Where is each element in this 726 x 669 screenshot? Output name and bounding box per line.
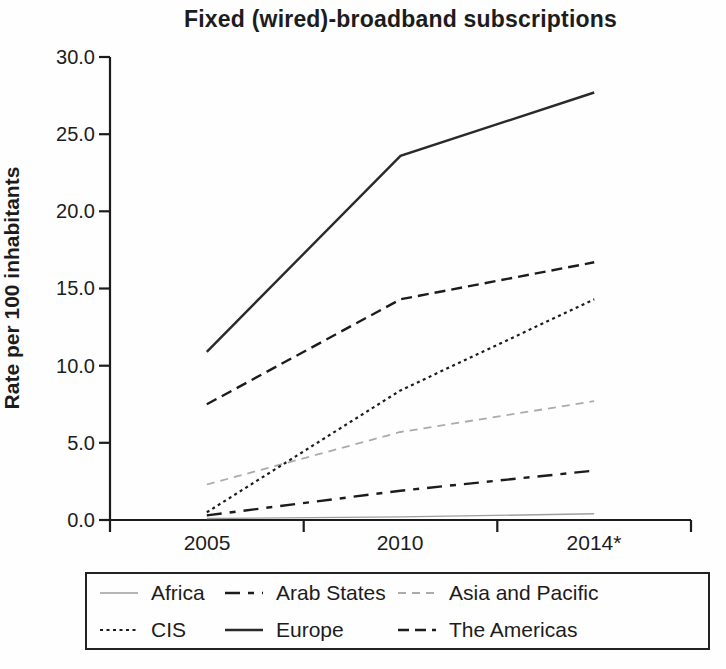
legend-label-cis: CIS (151, 618, 186, 642)
europe-line-sample-icon (224, 619, 264, 641)
legend-label-asia-pacific: Asia and Pacific (449, 581, 598, 605)
series-line-cis (207, 299, 594, 512)
x-axis-ticks (110, 520, 691, 532)
plot-area (0, 0, 726, 565)
arab-states-line-sample-icon (224, 582, 264, 604)
legend-label-arab-states: Arab States (276, 581, 386, 605)
series-lines-group (207, 93, 594, 519)
legend-item-americas: The Americas (397, 611, 708, 648)
legend-item-cis: CIS (99, 611, 224, 648)
asia-pacific-line-sample-icon (397, 582, 437, 604)
legend-label-americas: The Americas (449, 618, 577, 642)
legend-item-africa: Africa (99, 574, 224, 611)
broadband-chart-figure: Fixed (wired)-broadband subscriptions Ra… (0, 0, 726, 669)
axis-lines (110, 57, 691, 520)
series-line-the-americas (207, 262, 594, 404)
legend-item-asia-pacific: Asia and Pacific (397, 574, 708, 611)
legend-label-europe: Europe (276, 618, 344, 642)
series-line-europe (207, 93, 594, 352)
series-line-asia-and-pacific (207, 401, 594, 484)
legend-item-arab-states: Arab States (224, 574, 397, 611)
series-line-arab-states (207, 471, 594, 516)
legend-label-africa: Africa (151, 581, 205, 605)
series-line-africa (207, 514, 594, 519)
legend-item-europe: Europe (224, 611, 397, 648)
y-axis-ticks (99, 57, 110, 520)
americas-line-sample-icon (397, 619, 437, 641)
africa-line-sample-icon (99, 582, 139, 604)
cis-line-sample-icon (99, 619, 139, 641)
chart-legend: Africa Arab States Asia and Pacific CIS … (85, 572, 710, 650)
